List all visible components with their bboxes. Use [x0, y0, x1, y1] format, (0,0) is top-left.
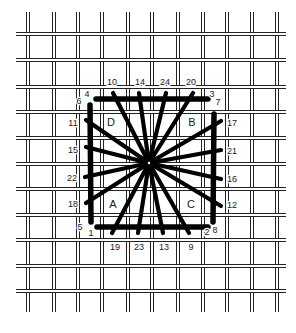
corner-label-7: 7	[215, 97, 220, 107]
label-bottom-9: 9	[188, 242, 193, 252]
corner-label-8: 8	[212, 225, 217, 235]
corner-label-5: 5	[77, 222, 82, 232]
corner-label-3: 3	[209, 89, 214, 99]
label-right-12: 12	[227, 200, 237, 210]
label-top-10: 10	[107, 77, 117, 87]
corner-label-2: 2	[204, 227, 209, 237]
quadrant-letter-c: C	[187, 198, 195, 210]
center-point	[148, 162, 150, 164]
label-right-17: 17	[227, 118, 237, 128]
stitch-diagram: 101424201923139111522181721161246375128 …	[0, 0, 296, 333]
label-left-11: 11	[68, 118, 77, 128]
label-top-24: 24	[160, 77, 170, 87]
corner-label-4: 4	[84, 89, 89, 99]
label-right-21: 21	[227, 146, 237, 156]
label-left-15: 15	[68, 145, 78, 155]
label-bottom-23: 23	[134, 242, 144, 252]
diagram-canvas: 101424201923139111522181721161246375128 …	[0, 0, 296, 333]
corner-label-6: 6	[76, 96, 81, 106]
quadrant-letter-a: A	[109, 198, 117, 210]
label-top-20: 20	[186, 77, 196, 87]
frame-stitch-right	[213, 114, 214, 222]
label-bottom-13: 13	[159, 242, 169, 252]
quadrant-letter-b: B	[188, 116, 195, 128]
label-left-22: 22	[67, 173, 77, 183]
label-bottom-19: 19	[110, 242, 120, 252]
label-top-14: 14	[135, 77, 145, 87]
quadrant-letter-d: D	[107, 116, 115, 128]
corner-label-1: 1	[88, 228, 93, 238]
label-left-18: 18	[68, 199, 78, 209]
label-right-16: 16	[227, 174, 237, 184]
